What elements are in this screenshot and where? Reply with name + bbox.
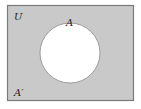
universe-label: U: [14, 11, 23, 22]
set-a-label: A: [65, 17, 73, 28]
complement-label: A′: [13, 87, 24, 98]
venn-diagram: U A A′: [0, 0, 141, 109]
set-a-circle: [40, 23, 100, 83]
